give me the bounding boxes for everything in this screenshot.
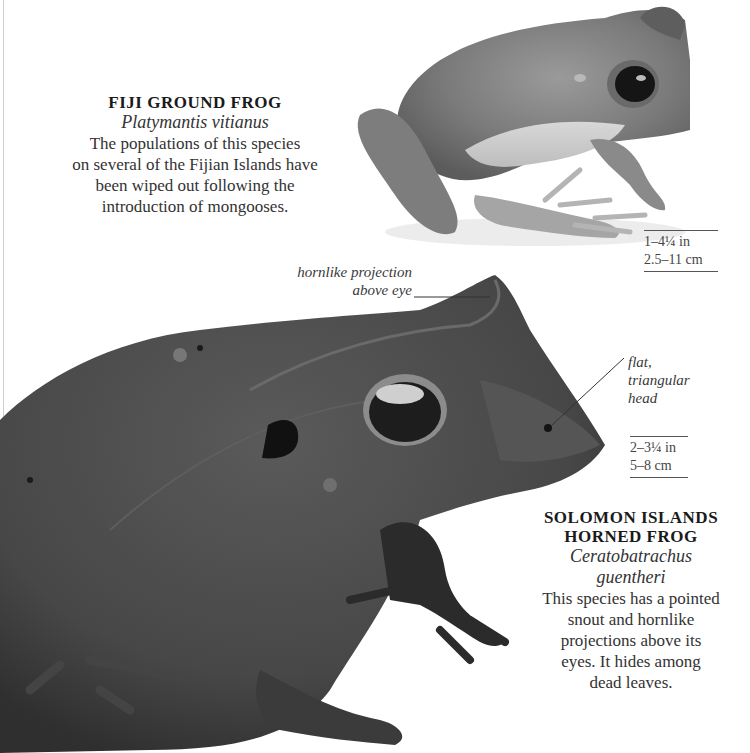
- solomon-description-line: dead leaves.: [518, 672, 744, 693]
- solomon-description-line: projections above its: [518, 630, 744, 651]
- solomon-common-name-line: SOLOMON ISLANDS: [518, 508, 744, 527]
- solomon-description-line: eyes. It hides among: [518, 651, 744, 672]
- solomon-description-line: snout and hornlike: [518, 609, 744, 630]
- solomon-scientific-name: Ceratobatrachus guentheri: [518, 546, 744, 588]
- callout-head-line: triangular: [628, 371, 718, 389]
- solomon-size-imperial: 2–3¼ in: [630, 439, 688, 457]
- solomon-horned-frog-caption: SOLOMON ISLANDS HORNED FROG Ceratobatrac…: [518, 508, 744, 693]
- callout-head-line: head: [628, 389, 718, 407]
- solomon-size-box: 2–3¼ in 5–8 cm: [630, 436, 688, 478]
- solomon-size-metric: 5–8 cm: [630, 457, 688, 475]
- solomon-scientific-name-line: Ceratobatrachus: [518, 546, 744, 567]
- solomon-common-name-line: HORNED FROG: [518, 527, 744, 546]
- solomon-description: This species has a pointed snout and hor…: [518, 588, 744, 693]
- solomon-common-name: SOLOMON ISLANDS HORNED FROG: [518, 508, 744, 546]
- solomon-scientific-name-line: guentheri: [518, 567, 744, 588]
- callout-flat-triangular-head: flat, triangular head: [628, 353, 718, 407]
- callout-head-line: flat,: [628, 353, 718, 371]
- solomon-description-line: This species has a pointed: [518, 588, 744, 609]
